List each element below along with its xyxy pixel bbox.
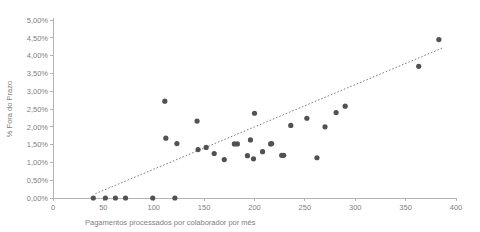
data-point bbox=[304, 116, 309, 121]
data-point bbox=[322, 124, 327, 129]
data-point bbox=[314, 155, 319, 160]
data-point bbox=[235, 141, 240, 146]
data-point bbox=[123, 195, 128, 200]
chart-plot-area: 0,00%0,50%1,00%1,50%2,00%2,50%3,00%3,50%… bbox=[0, 0, 480, 232]
x-tick-label: 50 bbox=[99, 203, 107, 212]
data-point bbox=[174, 141, 179, 146]
x-tick-label: 400 bbox=[450, 203, 463, 212]
data-point bbox=[281, 153, 286, 158]
y-tick-label: 2,00% bbox=[27, 123, 49, 132]
y-tick-label: 3,00% bbox=[27, 87, 49, 96]
y-tick-label: 0,00% bbox=[27, 194, 49, 203]
data-point bbox=[252, 111, 257, 116]
data-point bbox=[288, 123, 293, 128]
data-point bbox=[251, 156, 256, 161]
y-tick-label: 0,50% bbox=[27, 176, 49, 185]
y-tick-label: 4,00% bbox=[27, 51, 49, 60]
data-point bbox=[260, 149, 265, 154]
y-tick-label: 5,00% bbox=[27, 16, 49, 25]
scatter-chart: 0,00%0,50%1,00%1,50%2,00%2,50%3,00%3,50%… bbox=[0, 0, 480, 232]
data-point bbox=[162, 99, 167, 104]
data-point bbox=[245, 153, 250, 158]
data-point bbox=[194, 119, 199, 124]
x-tick-label: 0 bbox=[51, 203, 55, 212]
x-tick-label: 200 bbox=[248, 203, 261, 212]
data-point bbox=[91, 195, 96, 200]
data-point bbox=[269, 141, 274, 146]
data-point bbox=[163, 136, 168, 141]
data-point bbox=[150, 195, 155, 200]
data-point bbox=[195, 147, 200, 152]
x-tick-label: 100 bbox=[147, 203, 160, 212]
x-axis-title: Pagamentos processados por colaborador p… bbox=[85, 218, 256, 227]
data-point bbox=[343, 104, 348, 109]
data-point bbox=[172, 195, 177, 200]
x-tick-label: 350 bbox=[399, 203, 412, 212]
y-tick-label: 4,50% bbox=[27, 34, 49, 43]
data-point bbox=[416, 64, 421, 69]
data-point bbox=[204, 145, 209, 150]
y-tick-label: 2,50% bbox=[27, 105, 49, 114]
trendline bbox=[95, 48, 443, 194]
data-point bbox=[334, 110, 339, 115]
y-axis-title: % Fora do Prazo bbox=[5, 81, 14, 137]
data-point bbox=[113, 195, 118, 200]
x-tick-label: 300 bbox=[349, 203, 362, 212]
data-point bbox=[222, 157, 227, 162]
y-tick-label: 3,50% bbox=[27, 69, 49, 78]
data-point bbox=[103, 195, 108, 200]
data-point bbox=[248, 137, 253, 142]
data-point bbox=[436, 37, 441, 42]
x-tick-label: 250 bbox=[299, 203, 312, 212]
data-point bbox=[212, 151, 217, 156]
x-tick-label: 150 bbox=[198, 203, 211, 212]
y-tick-label: 1,50% bbox=[27, 140, 49, 149]
y-tick-label: 1,00% bbox=[27, 158, 49, 167]
